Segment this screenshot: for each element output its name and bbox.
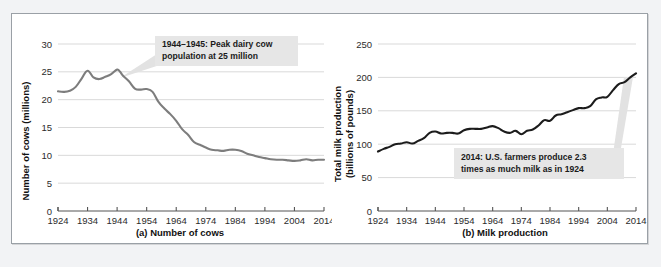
- figure-panel: 051015202530 192419341944195419641974198…: [11, 13, 648, 244]
- y-tick-label: 100: [356, 139, 372, 150]
- chart-a-xtick-labels: 1924193419441954196419741984199420042014: [47, 215, 332, 226]
- y-tick-label: 5: [47, 178, 52, 189]
- chart-b-y-axis-title-line-1: Total milk production: [332, 86, 343, 182]
- chart-b-annotation-line-1: 2014: U.S. farmers produce 2.3: [461, 152, 587, 162]
- y-tick-label: 250: [356, 39, 372, 50]
- chart-a-caption: (a) Number of cows: [136, 227, 224, 238]
- chart-b-ytick-labels: 050100150200250: [356, 39, 372, 217]
- chart-b-xtick-labels: 1924193419441954196419741984199420042014: [367, 215, 646, 226]
- x-tick-label: 1964: [482, 215, 503, 226]
- x-tick-label: 1984: [539, 215, 560, 226]
- chart-a-data-line: [58, 70, 324, 161]
- chart-b-data-line: [378, 73, 636, 151]
- x-tick-label: 1964: [166, 215, 187, 226]
- y-tick-label: 10: [41, 150, 52, 161]
- x-tick-label: 1954: [453, 215, 474, 226]
- chart-a-ytick-labels: 051015202530: [41, 39, 52, 217]
- chart-a-y-axis-title: Number of cows (millions): [20, 82, 31, 201]
- chart-a-axis: [58, 207, 324, 211]
- chart-a-annotation: 1944–1945: Peak dairy cow population at …: [155, 36, 298, 66]
- y-tick-label: 150: [356, 105, 372, 116]
- x-tick-label: 1934: [396, 215, 417, 226]
- y-tick-label: 25: [41, 66, 52, 77]
- chart-a-annotation-line-2: population at 25 million: [162, 51, 258, 61]
- x-tick-label: 1924: [47, 215, 68, 226]
- chart-a-annotation-line-1: 1944–1945: Peak dairy cow: [162, 39, 273, 49]
- x-tick-label: 2004: [597, 215, 618, 226]
- y-tick-label: 50: [361, 172, 372, 183]
- x-tick-label: 1924: [367, 215, 388, 226]
- y-tick-label: 200: [356, 72, 372, 83]
- chart-b-leader-line: [613, 77, 633, 154]
- chart-b-annotation-line-2: times as much milk as in 1924: [461, 164, 584, 174]
- y-tick-label: 20: [41, 94, 52, 105]
- x-tick-label: 1944: [107, 215, 128, 226]
- x-tick-label: 1954: [136, 215, 157, 226]
- chart-milk-production: 050100150200250 192419341944195419641974…: [330, 14, 649, 245]
- y-tick-label: 30: [41, 39, 52, 50]
- x-tick-label: 1994: [254, 215, 275, 226]
- x-tick-label: 1994: [568, 215, 589, 226]
- x-tick-label: 1974: [511, 215, 532, 226]
- x-tick-label: 1974: [195, 215, 216, 226]
- x-tick-label: 1934: [77, 215, 98, 226]
- x-tick-label: 1984: [225, 215, 246, 226]
- chart-b-y-axis-title-line-2: (billions of pounds): [344, 90, 355, 178]
- chart-b-annotation: 2014: U.S. farmers produce 2.3 times as …: [454, 148, 624, 179]
- chart-number-of-cows: 051015202530 192419341944195419641974198…: [12, 14, 332, 245]
- x-tick-label: 1944: [425, 215, 446, 226]
- y-tick-label: 15: [41, 122, 52, 133]
- chart-a-svg: 051015202530 192419341944195419641974198…: [12, 14, 332, 245]
- chart-b-axis: [378, 207, 636, 211]
- chart-b-caption: (b) Milk production: [462, 227, 548, 238]
- x-tick-label: 2014: [625, 215, 646, 226]
- x-tick-label: 2004: [284, 215, 305, 226]
- chart-b-svg: 050100150200250 192419341944195419641974…: [330, 14, 649, 245]
